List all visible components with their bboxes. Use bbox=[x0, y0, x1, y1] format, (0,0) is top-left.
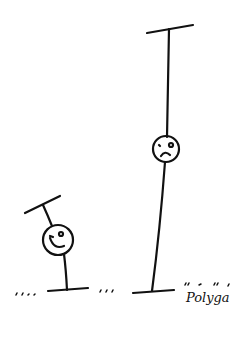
cartoon-drawing bbox=[0, 0, 244, 337]
short-figure bbox=[25, 196, 88, 291]
tall-figure bbox=[133, 25, 193, 293]
artist-signature: Polyga bbox=[186, 290, 230, 305]
